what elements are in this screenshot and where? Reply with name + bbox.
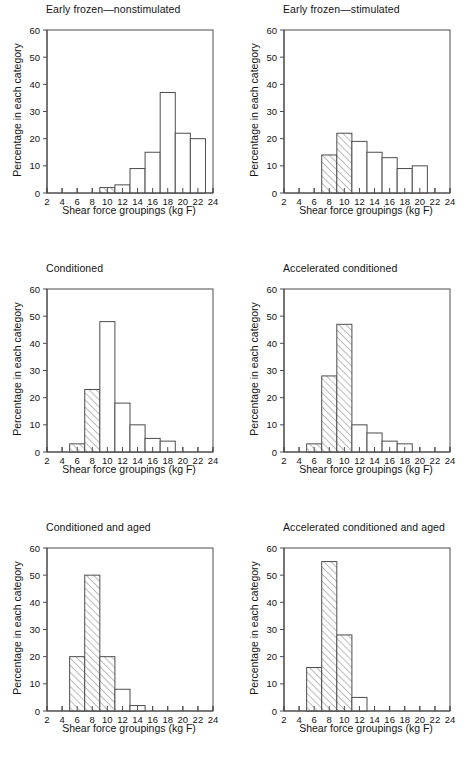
y-tick-label: 60 — [266, 25, 277, 36]
chart-panel: Accelerated conditioned and agedPercenta… — [237, 518, 473, 777]
x-tick-label: 16 — [147, 714, 158, 725]
y-tick-label: 40 — [29, 338, 40, 349]
histogram-bar-hatched — [85, 575, 100, 711]
y-tick-label: 20 — [266, 651, 277, 662]
x-tick-label: 2 — [44, 714, 49, 725]
x-tick-label: 16 — [147, 196, 158, 207]
x-tick-label: 16 — [384, 455, 395, 466]
y-tick-label: 60 — [266, 284, 277, 295]
x-tick-label: 10 — [102, 455, 113, 466]
x-tick-label: 4 — [296, 714, 301, 725]
histogram-bar-hatched — [70, 657, 85, 711]
histogram-bar-hatched — [322, 155, 337, 193]
x-tick-label: 6 — [312, 714, 317, 725]
x-tick-label: 10 — [102, 714, 113, 725]
y-tick-label: 10 — [29, 419, 40, 430]
x-tick-label: 2 — [281, 714, 286, 725]
x-tick-label: 14 — [132, 196, 143, 207]
x-tick-label: 24 — [208, 714, 219, 725]
x-tick-label: 8 — [90, 714, 95, 725]
x-tick-label: 4 — [296, 455, 301, 466]
x-tick-label: 2 — [44, 196, 49, 207]
histogram-bar-hatched — [85, 390, 100, 452]
histogram-bar — [160, 92, 175, 193]
y-tick-label: 30 — [266, 365, 277, 376]
x-tick-label: 24 — [208, 455, 219, 466]
x-tick-label: 22 — [430, 196, 441, 207]
y-tick-label: 40 — [29, 597, 40, 608]
y-tick-label: 10 — [266, 678, 277, 689]
y-tick-label: 30 — [29, 624, 40, 635]
y-tick-label: 60 — [29, 284, 40, 295]
plot-area: 010203040506024681012141618202224 — [0, 259, 236, 518]
x-tick-label: 10 — [102, 196, 113, 207]
histogram-bar — [190, 139, 205, 193]
plot-area: 010203040506024681012141618202224 — [237, 259, 473, 518]
histogram-bar — [352, 141, 367, 193]
x-tick-label: 6 — [75, 455, 80, 466]
y-tick-label: 60 — [266, 543, 277, 554]
histogram-bar-hatched — [337, 635, 352, 711]
x-tick-label: 14 — [369, 455, 380, 466]
x-tick-label: 12 — [354, 455, 365, 466]
y-tick-label: 20 — [266, 133, 277, 144]
x-tick-label: 16 — [147, 455, 158, 466]
y-tick-label: 20 — [29, 133, 40, 144]
x-tick-label: 6 — [75, 714, 80, 725]
x-tick-label: 18 — [399, 455, 410, 466]
y-tick-label: 30 — [29, 365, 40, 376]
x-tick-label: 18 — [399, 196, 410, 207]
y-tick-label: 30 — [266, 624, 277, 635]
y-tick-label: 40 — [266, 338, 277, 349]
x-tick-label: 2 — [281, 455, 286, 466]
chart-panel: Accelerated conditionedPercentage in eac… — [237, 259, 473, 518]
plot-area: 010203040506024681012141618202224 — [0, 0, 236, 259]
x-tick-label: 24 — [445, 714, 456, 725]
histogram-bar — [115, 403, 130, 452]
histogram-bar-hatched — [337, 133, 352, 193]
x-tick-label: 8 — [327, 714, 332, 725]
x-tick-label: 24 — [208, 196, 219, 207]
x-tick-label: 12 — [117, 196, 128, 207]
chart-panel: Early frozen—stimulatedPercentage in eac… — [237, 0, 473, 259]
histogram-bar-hatched — [322, 376, 337, 452]
y-tick-label: 10 — [266, 419, 277, 430]
y-tick-label: 40 — [29, 79, 40, 90]
x-tick-label: 12 — [117, 714, 128, 725]
histogram-figure: Early frozen—nonstimulatedPercentage in … — [0, 0, 473, 777]
y-tick-label: 0 — [35, 188, 40, 199]
x-tick-label: 14 — [369, 714, 380, 725]
y-tick-label: 50 — [266, 52, 277, 63]
x-tick-label: 18 — [162, 714, 173, 725]
x-tick-label: 20 — [415, 714, 426, 725]
x-tick-label: 6 — [312, 196, 317, 207]
x-tick-label: 20 — [415, 196, 426, 207]
histogram-bar-hatched — [100, 657, 115, 711]
chart-panel: Early frozen—nonstimulatedPercentage in … — [0, 0, 236, 259]
x-tick-label: 4 — [59, 714, 64, 725]
y-tick-label: 60 — [29, 25, 40, 36]
y-tick-label: 20 — [29, 392, 40, 403]
y-tick-label: 0 — [272, 188, 277, 199]
y-tick-label: 50 — [266, 311, 277, 322]
x-tick-label: 20 — [178, 455, 189, 466]
y-tick-label: 0 — [272, 706, 277, 717]
histogram-bar — [100, 322, 115, 452]
x-tick-label: 8 — [327, 196, 332, 207]
x-tick-label: 22 — [430, 455, 441, 466]
histogram-bar-hatched — [337, 324, 352, 452]
x-tick-label: 2 — [281, 196, 286, 207]
y-tick-label: 20 — [266, 392, 277, 403]
histogram-bar — [175, 133, 190, 193]
y-tick-label: 10 — [266, 160, 277, 171]
x-tick-label: 10 — [339, 714, 350, 725]
x-tick-label: 22 — [430, 714, 441, 725]
y-tick-label: 40 — [266, 597, 277, 608]
x-tick-label: 18 — [399, 714, 410, 725]
x-tick-label: 22 — [193, 455, 204, 466]
y-tick-label: 30 — [266, 106, 277, 117]
chart-panel: Conditioned and agedPercentage in each c… — [0, 518, 236, 777]
x-tick-label: 4 — [296, 196, 301, 207]
x-tick-label: 16 — [384, 196, 395, 207]
x-tick-label: 20 — [415, 455, 426, 466]
